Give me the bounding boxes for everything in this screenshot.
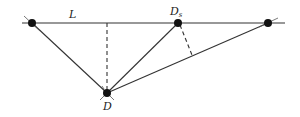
point-left	[28, 19, 36, 27]
segment-d-to-ds	[107, 23, 178, 93]
label-ds: Ds	[169, 5, 183, 19]
point-d	[103, 89, 111, 97]
label-ds-sub: s	[179, 11, 183, 19]
point-ds	[174, 19, 182, 27]
dashed-perpendicular-ds	[180, 25, 192, 55]
segment-d-to-right	[107, 23, 268, 93]
point-right	[264, 19, 272, 27]
segment-left-to-d	[32, 23, 107, 93]
label-d: D	[102, 100, 112, 113]
label-ds-main: D	[169, 5, 179, 18]
label-l: L	[68, 8, 76, 21]
geometry-diagram: L Ds D	[0, 0, 300, 117]
